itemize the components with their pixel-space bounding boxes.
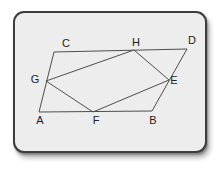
figure-card [13, 11, 207, 153]
